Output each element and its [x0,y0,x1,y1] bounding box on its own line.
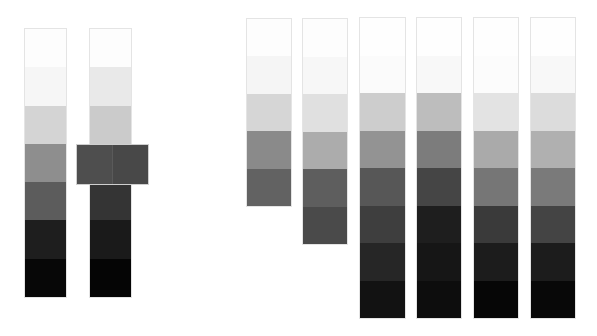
value-block [360,93,405,131]
value-block [474,206,518,244]
value-block [90,67,131,105]
value-block [303,57,347,95]
value-block [474,243,518,281]
value-block [360,18,405,56]
value-block [474,56,518,94]
value-block [25,106,66,144]
value-block [360,131,405,169]
overlay-swatch-pair [77,145,148,184]
value-block [90,29,131,67]
value-block [25,144,66,182]
value-block [531,56,575,94]
value-block [417,93,461,131]
value-block [25,182,66,220]
value-block [303,207,347,245]
value-block [25,67,66,105]
value-block [303,132,347,170]
value-block [474,168,518,206]
value-block [417,168,461,206]
value-block [90,106,131,144]
value-block [25,259,66,297]
value-block [531,281,575,319]
gray-value-strip-4 [303,19,347,244]
value-block [360,206,405,244]
value-block [303,19,347,57]
value-block [360,243,405,281]
value-block [303,94,347,132]
value-block [360,168,405,206]
value-block [247,131,291,168]
value-block [417,206,461,244]
gray-value-strip-8 [531,18,575,318]
value-block [247,19,291,56]
value-block [474,281,518,319]
gray-value-strip-5 [360,18,405,318]
value-block [417,131,461,169]
value-block [360,56,405,94]
value-block [247,56,291,93]
value-block [474,131,518,169]
value-block [531,93,575,131]
gray-value-strip-6 [417,18,461,318]
gray-value-strip-3 [247,19,291,206]
value-block [360,281,405,319]
value-block [90,220,131,258]
value-block [417,56,461,94]
value-block [90,182,131,220]
gray-value-strip-1 [25,29,66,297]
value-block [474,93,518,131]
value-block [303,169,347,207]
value-block [25,220,66,258]
value-block [417,243,461,281]
value-block [531,131,575,169]
overlay-swatch [77,145,112,184]
value-block [417,281,461,319]
overlay-swatch [112,145,148,184]
value-block [25,29,66,67]
value-block [247,169,291,206]
value-block [531,243,575,281]
value-block [531,206,575,244]
value-block [247,94,291,131]
gray-value-strip-7 [474,18,518,318]
value-block [474,18,518,56]
value-block [531,168,575,206]
value-block [90,259,131,297]
value-block [531,18,575,56]
value-block [417,18,461,56]
